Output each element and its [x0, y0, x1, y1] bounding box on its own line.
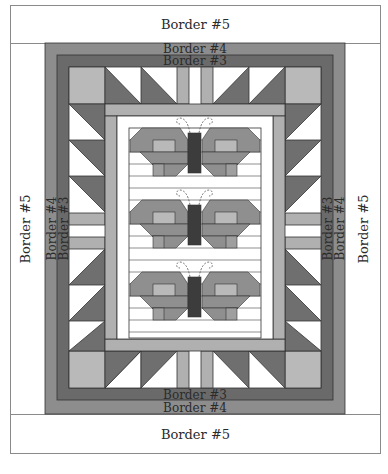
border-5-right-label-wrap: Border #5 [356, 189, 370, 269]
border-4-right-label: Border #4 [332, 197, 346, 261]
border-3-top-label: Border #3 [163, 54, 227, 68]
border-3-left-label-wrap: Border #3 [57, 189, 70, 269]
border-4-bottom-label: Border #4 [163, 401, 227, 415]
border-5-right-label: Border #5 [356, 194, 371, 263]
border-4-right-label-wrap: Border #4 [333, 189, 346, 269]
border-3-top-label-wrap: Border #3 [57, 54, 333, 67]
border-3-bottom-label: Border #3 [163, 388, 227, 402]
border-4-bottom-label-wrap: Border #4 [45, 401, 345, 414]
border-3-bottom-label-wrap: Border #3 [57, 388, 333, 401]
border-5-left-label: Border #5 [18, 194, 33, 263]
border-5-left-label-wrap: Border #5 [18, 189, 32, 269]
border-3-left-label: Border #3 [56, 197, 70, 261]
